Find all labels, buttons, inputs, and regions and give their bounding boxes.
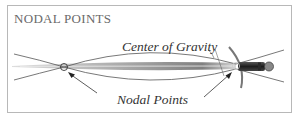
nodal-points-label: Nodal Points	[117, 92, 188, 108]
sword-pommel	[265, 62, 274, 71]
center-of-gravity-label: Center of Gravity	[122, 39, 217, 55]
arrow-to-front-node	[70, 74, 97, 93]
grip-ring	[258, 63, 261, 71]
arrow-head-rear	[226, 72, 233, 79]
arrow-to-rear-node	[204, 74, 230, 97]
